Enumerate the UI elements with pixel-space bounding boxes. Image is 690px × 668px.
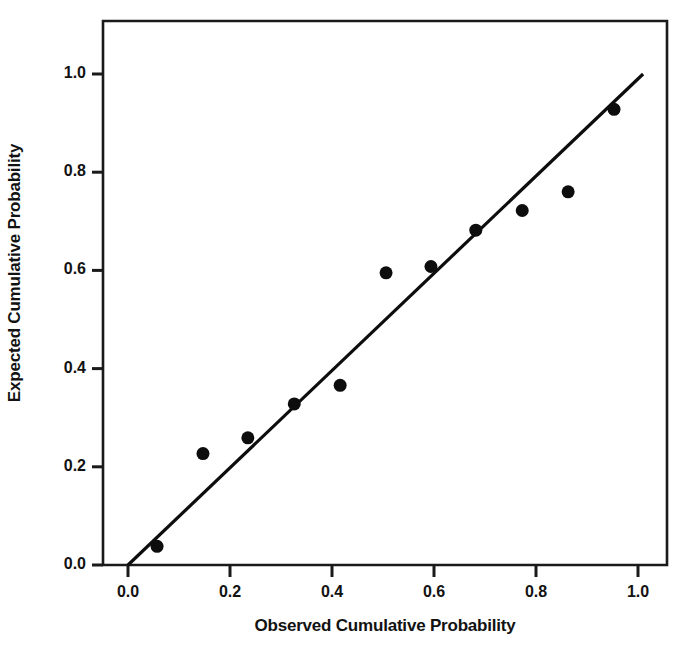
data-points (151, 103, 621, 553)
plot-frame (103, 21, 667, 565)
reference-line (128, 74, 643, 565)
x-tick-label-1.0: 1.0 (615, 583, 661, 601)
diagonal-reference-line (128, 74, 643, 565)
y-tick-label-0.0: 0.0 (42, 555, 86, 573)
data-point (562, 185, 575, 198)
plot-border (103, 21, 667, 565)
x-tick-label-0.4: 0.4 (309, 583, 355, 601)
data-point (469, 224, 482, 237)
x-tick-label-0.6: 0.6 (411, 583, 457, 601)
y-tick-label-0.2: 0.2 (42, 457, 86, 475)
data-point (424, 260, 437, 273)
x-tick-label-0.8: 0.8 (513, 583, 559, 601)
plot-canvas (0, 0, 690, 668)
axis-ticks (92, 74, 638, 577)
data-point (196, 447, 209, 460)
data-point (380, 266, 393, 279)
y-tick-label-0.6: 0.6 (42, 260, 86, 278)
data-point (288, 397, 301, 410)
pp-plot-figure: Expected Cumulative Probability Observed… (0, 0, 690, 668)
y-tick-label-1.0: 1.0 (42, 64, 86, 82)
y-tick-label-0.4: 0.4 (42, 359, 86, 377)
data-point (608, 103, 621, 116)
x-tick-label-0.0: 0.0 (105, 583, 151, 601)
y-tick-label-0.8: 0.8 (42, 162, 86, 180)
x-tick-label-0.2: 0.2 (207, 583, 253, 601)
data-point (334, 379, 347, 392)
data-point (516, 204, 529, 217)
data-point (241, 431, 254, 444)
data-point (151, 540, 164, 553)
